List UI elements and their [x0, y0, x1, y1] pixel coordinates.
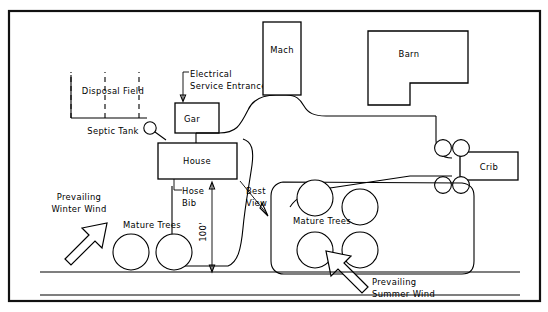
- tree-icon: [297, 180, 333, 216]
- garage-label: Gar: [184, 114, 200, 124]
- septic-tank: Septic Tank: [87, 122, 166, 140]
- mature-trees-right-area: Mature Trees: [271, 180, 474, 274]
- barn-footprint: [368, 31, 468, 105]
- machine-shed-footprint: [263, 22, 301, 95]
- tree-icon: [297, 232, 333, 268]
- prevailing-winter-wind: Prevailing Winter Wind: [51, 192, 107, 265]
- house-building: House: [158, 133, 237, 179]
- mature-trees-right-label: Mature Trees: [293, 216, 351, 226]
- machine-shed-building: Mach: [263, 22, 301, 95]
- hose-bib-label-line2: Bib: [182, 198, 196, 208]
- prevailing-summer-wind-label-line1: Prevailing: [372, 277, 417, 287]
- grain-bin-icon: [453, 140, 470, 157]
- hose-bib: Hose Bib: [174, 179, 204, 208]
- house-label: House: [183, 156, 211, 166]
- machine-shed-label: Mach: [270, 45, 294, 55]
- crib-label: Crib: [480, 162, 498, 172]
- grain-bin-icon: [435, 177, 452, 194]
- grain-bin-icon: [435, 140, 452, 157]
- prevailing-winter-wind-label-line1: Prevailing: [57, 192, 102, 202]
- site-plan-diagram: Disposal Field Septic Tank Electrical Se…: [0, 0, 548, 312]
- best-view-indicator: Best View: [240, 181, 268, 216]
- mature-trees-left-area: Mature Trees: [113, 220, 192, 270]
- hose-bib-label-line1: Hose: [182, 186, 204, 196]
- mature-trees-left-label: Mature Trees: [123, 220, 181, 230]
- prevailing-summer-wind: Prevailing Summer Wind: [326, 251, 435, 299]
- disposal-field-label: Disposal Field: [82, 86, 144, 96]
- garage-building: Gar: [175, 103, 219, 133]
- barn-label: Barn: [399, 49, 420, 59]
- septic-lateral-line: [155, 132, 166, 140]
- septic-tank-symbol: [144, 122, 156, 134]
- site-plan-canvas: Disposal Field Septic Tank Electrical Se…: [0, 0, 548, 312]
- electrical-service-entrance-label-line2: Service Entrance: [190, 81, 267, 91]
- prevailing-winter-wind-label-line2: Winter Wind: [51, 204, 106, 214]
- barn-building: Barn: [368, 31, 468, 105]
- septic-tank-label: Septic Tank: [87, 126, 139, 136]
- best-view-label-line2: View: [246, 198, 267, 208]
- electrical-service-entrance-label-line1: Electrical: [190, 69, 232, 79]
- setback-dimension-label: 100': [198, 222, 208, 242]
- crib-building: Crib: [435, 140, 518, 194]
- hose-bib-leader: [174, 179, 182, 190]
- electrical-service-entrance: Electrical Service Entrance: [180, 69, 266, 102]
- prevailing-summer-wind-label-line2: Summer Wind: [372, 289, 435, 299]
- winter-wind-arrow-icon: [65, 223, 107, 265]
- tree-icon: [156, 234, 192, 270]
- grain-bin-icon: [453, 177, 470, 194]
- tree-icon: [113, 234, 149, 270]
- tree-icon: [342, 232, 378, 268]
- road: [40, 272, 520, 295]
- disposal-field: Disposal Field: [71, 72, 147, 118]
